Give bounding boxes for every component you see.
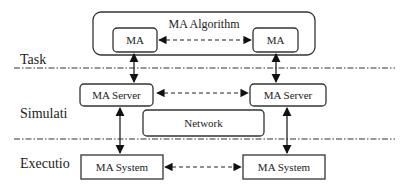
ma-algorithm-label: MA Algorithm <box>168 17 240 31</box>
diagram-canvas: Task Simulati Executio MA Algorithm MA M… <box>0 0 403 193</box>
server-right-label: MA Server <box>264 89 313 101</box>
ma-right-label: MA <box>267 34 285 46</box>
system-right-label: MA System <box>258 161 311 173</box>
network-label: Network <box>184 117 223 129</box>
server-left-label: MA Server <box>92 89 141 101</box>
layer-label-task: Task <box>20 52 46 67</box>
system-left-label: MA System <box>96 161 149 173</box>
ma-left-label: MA <box>126 34 144 46</box>
layer-label-simulation: Simulati <box>20 106 68 121</box>
layer-label-execution: Executio <box>20 156 70 171</box>
